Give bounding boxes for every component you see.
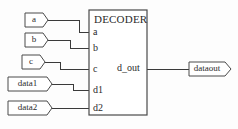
pin-label-d-out: d_out [117,63,140,73]
wire-data1 [52,84,89,90]
wire-b [48,40,89,48]
pin-label-c: c [93,64,97,74]
input-tag-label-data1: data1 [8,79,47,88]
pin-label-d1: d1 [93,85,103,95]
output-tag-label-dataout: dataout [189,64,225,73]
input-tag-label-b: b [25,35,43,44]
wire-c [45,62,89,69]
decoder-block-title: DECODER [94,14,147,25]
input-tag-label-data2: data2 [8,103,47,112]
pin-label-a: a [93,27,97,37]
input-tag-label-a: a [25,15,43,24]
wire-a [48,20,89,32]
input-tag-label-c: c [22,57,40,66]
pin-label-d2: d2 [93,103,103,113]
schematic-canvas: DECODER a b c d1 d2 d_out a b c data1 da… [0,0,238,129]
pin-label-b: b [93,43,98,53]
